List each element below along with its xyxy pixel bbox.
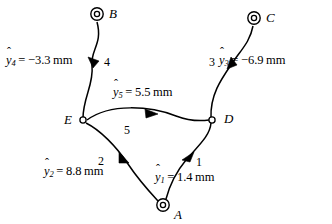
link-1-arrowhead (182, 152, 194, 162)
node-A-ground-pivot-icon (157, 199, 169, 211)
link-4-curve (83, 22, 99, 118)
link-3-value: −6.9 (241, 53, 264, 67)
link-3-unit: mm (266, 53, 285, 67)
node-E-pin-joint-icon (80, 117, 86, 123)
link-2-operator: = (56, 164, 63, 178)
link-4-value-label: y4=−3.3mm (6, 54, 73, 68)
link-3-value-label: y3=−6.9mm (219, 54, 286, 68)
node-label-A: A (174, 208, 182, 221)
link-2-subscript: 2 (50, 169, 54, 179)
link-5-subscript: 5 (119, 90, 123, 100)
link-5-unit: mm (153, 85, 172, 99)
link-3-operator: = (231, 53, 238, 67)
link-1-subscript: 1 (161, 175, 165, 185)
link-4-unit: mm (53, 53, 72, 67)
link-2-value-label: y2=8.8mm (44, 165, 103, 179)
link-1-value-label: y1=1.4mm (155, 171, 214, 185)
node-B-ground-pivot-icon (91, 8, 103, 20)
link-5-value: 5.5 (135, 85, 151, 99)
node-C-ground-pivot-icon (248, 12, 260, 24)
link-number-4: 4 (104, 56, 110, 68)
link-number-3: 3 (209, 56, 215, 68)
node-label-E: E (64, 113, 72, 126)
link-3-subscript: 3 (225, 58, 229, 68)
linkage-diagram: B C E D A 4 3 5 2 1 y4=−3.3mm y3=−6.9mm … (0, 0, 332, 224)
link-5-value-label: y5=5.5mm (113, 86, 172, 100)
link-4-operator: = (18, 53, 25, 67)
node-label-B: B (109, 7, 117, 20)
link-1-unit: mm (195, 170, 214, 184)
node-label-D: D (224, 112, 233, 125)
link-3-curve (211, 26, 253, 118)
link-2-arrowhead (119, 152, 129, 163)
link-number-1: 1 (196, 156, 202, 168)
link-number-5: 5 (124, 124, 130, 136)
link-1-operator: = (167, 170, 174, 184)
link-4-subscript: 4 (12, 58, 16, 68)
link-4-arrowhead (88, 57, 99, 68)
node-D-pin-joint-icon (209, 117, 215, 123)
node-label-C: C (266, 11, 275, 24)
diagram-canvas (0, 0, 332, 224)
link-2-unit: mm (84, 164, 103, 178)
link-5-operator: = (125, 85, 132, 99)
link-4-value: −3.3 (28, 53, 51, 67)
link-1-value: 1.4 (177, 170, 193, 184)
link-2-value: 8.8 (66, 164, 82, 178)
